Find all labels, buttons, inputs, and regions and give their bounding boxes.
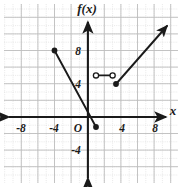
closed-point-left-end: [52, 48, 58, 54]
graph-canvas: f(x) x O -8 -4 4 8 8 4 -4: [0, 0, 181, 187]
x-tick-pos-4: 4: [118, 122, 125, 134]
closed-point-ray-start: [113, 81, 119, 87]
origin-label: O: [74, 122, 82, 134]
open-point-constant-end: [110, 73, 115, 78]
piecewise-function-graph: f(x) x O -8 -4 4 8 8 4 -4: [0, 0, 181, 187]
open-point-constant-start: [93, 73, 98, 78]
x-tick-pos-8: 8: [152, 122, 158, 134]
x-tick-neg-4: -4: [49, 122, 59, 134]
closed-point-decreasing-end: [93, 124, 99, 130]
y-axis-title: f(x): [77, 1, 97, 16]
x-axis-title: x: [169, 103, 177, 118]
y-tick-pos-8: 8: [75, 45, 81, 57]
y-tick-neg-4: -4: [71, 144, 81, 156]
x-tick-neg-8: -8: [16, 122, 26, 134]
